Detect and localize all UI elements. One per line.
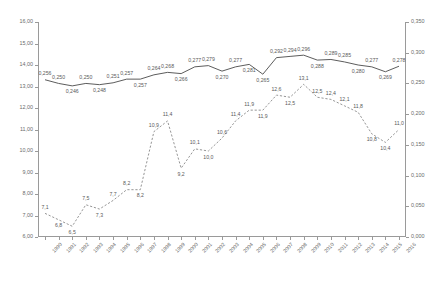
y-tick-label-right: 0,350 [411,19,425,24]
x-tick-label: 1992 [79,242,91,254]
x-tick-label: 2005 [256,242,268,254]
y-tick-label-right: 0,200 [411,111,425,116]
data-point-label: 7,3 [96,213,103,218]
y-tick-label-right: 0,300 [411,50,425,55]
y-tick-label-left: 7,00 [23,213,34,218]
y-tick-right [406,83,409,84]
data-point-label: 0,266 [175,77,188,82]
x-tick-label: 2000 [188,242,200,254]
y-tick-label-left: 9,00 [23,170,34,175]
x-tick-label: 1996 [133,242,145,254]
data-point-label: 12,1 [339,97,349,102]
y-tick-label-left: 14,00 [20,62,34,67]
x-tick-label: 2010 [324,242,336,254]
data-point-label: 0,278 [393,58,406,63]
x-tick-label: 1997 [147,242,159,254]
data-point-label: 0,288 [311,64,324,69]
data-point-label: 8,2 [123,181,130,186]
data-point-label: 6,5 [69,230,76,235]
data-point-label: 0,251 [107,74,120,79]
data-point-label: 12,5 [285,101,295,106]
data-point-label: 0,257 [134,83,147,88]
y-tick-label-right: 0,150 [411,142,425,147]
data-point-label: 11,8 [353,104,363,109]
y-tick-left [35,237,38,238]
x-tick [399,237,400,240]
x-tick [345,237,346,240]
x-tick-label: 2013 [365,242,377,254]
x-tick-label: 2004 [242,242,254,254]
data-point-label: 11,9 [258,114,268,119]
x-tick [195,237,196,240]
data-point-label: 0,268 [161,64,174,69]
x-tick-label: 1991 [65,242,77,254]
y-tick-right [406,114,409,115]
x-tick-label: 1994 [106,242,118,254]
data-point-label: 11,9 [244,102,254,107]
data-point-label: 10,0 [203,155,213,160]
chart-container: 6,007,008,009,0010,0011,0012,0013,0014,0… [0,0,445,286]
x-tick [236,237,237,240]
data-point-label: 0,279 [202,57,215,62]
y-tick-right [406,22,409,23]
data-point-label: 0,280 [352,69,365,74]
x-tick [140,237,141,240]
x-tick-label: 2015 [392,242,404,254]
x-tick-label: 2016 [405,242,417,254]
x-tick [127,237,128,240]
y-tick-label-right: 0,050 [411,203,425,208]
x-tick [263,237,264,240]
data-point-label: 12,5 [312,89,322,94]
y-tick-label-left: 10,00 [20,148,34,153]
x-tick-label: 2003 [228,242,240,254]
x-tick [208,237,209,240]
data-point-label: 0,294 [284,48,297,53]
data-point-label: 12,6 [271,87,281,92]
x-tick-label: 1998 [160,242,172,254]
data-point-label: 0,250 [52,75,65,80]
x-tick-label: 2008 [296,242,308,254]
x-tick-label: 2009 [310,242,322,254]
y-tick-right [406,53,409,54]
y-tick-label-right: 0,000 [411,234,425,239]
x-tick-label: 2006 [269,242,281,254]
x-tick-label: 1995 [119,242,131,254]
y-tick-label-right: 0,250 [411,80,425,85]
y-tick-label-left: 16,00 [20,19,34,24]
x-tick [304,237,305,240]
y-tick-label-left: 8,00 [23,191,34,196]
x-tick [154,237,155,240]
x-tick [372,237,373,240]
data-point-label: 7,7 [109,192,116,197]
x-tick-label: 2007 [283,242,295,254]
x-tick-label: 1999 [174,242,186,254]
data-point-label: 6,8 [55,223,62,228]
data-point-label: 0,296 [297,47,310,52]
data-point-label: 0,265 [256,78,269,83]
data-point-label: 9,2 [178,172,185,177]
data-point-label: 10,9 [149,123,159,128]
data-point-label: 10,6 [217,130,227,135]
data-point-label: 7,1 [41,205,48,210]
data-point-label: 0,257 [120,71,133,76]
x-tick-label: 2011 [337,242,349,254]
data-point-label: 0,292 [270,49,283,54]
solid-series-line [45,55,399,86]
y-tick-right [406,206,409,207]
data-point-label: 8,2 [137,193,144,198]
x-tick-label: 2012 [351,242,363,254]
y-tick-right [406,145,409,146]
y-tick-right [406,176,409,177]
data-point-label: 0,248 [93,88,106,93]
data-point-label: 0,285 [338,53,351,58]
x-tick [331,237,332,240]
y-tick-label-left: 15,00 [20,41,34,46]
data-point-label: 0,256 [39,71,52,76]
y-tick-label-left: 6,00 [23,234,34,239]
x-tick [86,237,87,240]
data-point-label: 0,277 [229,58,242,63]
y-tick-label-left: 11,00 [20,127,33,132]
plot-area: 6,007,008,009,0010,0011,0012,0013,0014,0… [38,22,406,237]
data-point-label: 11,4 [163,112,173,117]
x-tick [45,237,46,240]
